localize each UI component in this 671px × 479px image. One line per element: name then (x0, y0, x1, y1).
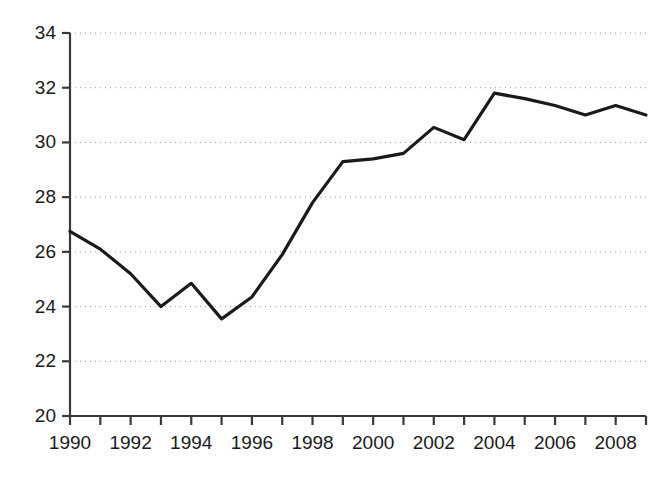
y-tick-label-20: 20 (35, 405, 56, 426)
line-chart: 2022242628303234 19901992199419961998200… (0, 0, 671, 479)
y-tick-label-34: 34 (35, 22, 57, 43)
y-tick-label-28: 28 (35, 186, 56, 207)
y-tick-label-24: 24 (35, 296, 57, 317)
x-tick-label-1998: 1998 (291, 432, 333, 453)
x-tick-label-2006: 2006 (534, 432, 576, 453)
x-tick-label-2004: 2004 (473, 432, 516, 453)
y-tick-label-32: 32 (35, 77, 56, 98)
chart-background (0, 0, 671, 479)
x-tick-label-1992: 1992 (109, 432, 151, 453)
x-tick-label-2002: 2002 (413, 432, 455, 453)
y-tick-label-22: 22 (35, 350, 56, 371)
x-tick-label-2000: 2000 (352, 432, 394, 453)
x-tick-label-1994: 1994 (170, 432, 213, 453)
y-tick-label-26: 26 (35, 241, 56, 262)
x-tick-label-1990: 1990 (49, 432, 91, 453)
x-tick-label-1996: 1996 (231, 432, 273, 453)
y-tick-label-30: 30 (35, 131, 56, 152)
chart-container: 2022242628303234 19901992199419961998200… (0, 0, 671, 479)
x-tick-label-2008: 2008 (595, 432, 637, 453)
